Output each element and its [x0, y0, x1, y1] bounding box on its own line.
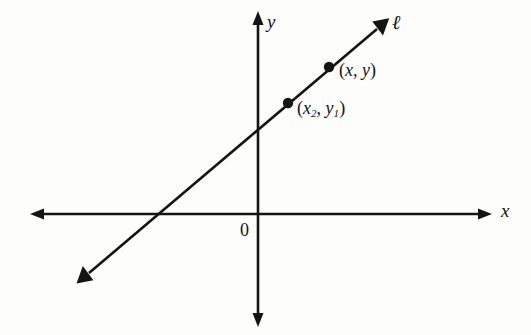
- origin-label: 0: [240, 221, 249, 239]
- point-label-lower-var-y: y: [326, 98, 334, 118]
- coordinate-plane-graphic: [0, 0, 531, 335]
- x-axis: [30, 209, 492, 220]
- point-label-lower-close-paren: ): [339, 98, 345, 118]
- point-label-lower-sub-y: 1: [334, 107, 340, 119]
- point-dot-lower: [283, 98, 293, 108]
- point-label-lower-sub-x: 2: [311, 107, 317, 119]
- figure-canvas: x y 0 ℓ (x, y) (x2, y1): [0, 0, 531, 335]
- point-label-lower-comma: ,: [317, 98, 326, 118]
- x-axis-label: x: [501, 201, 509, 220]
- line-ell: [77, 18, 390, 283]
- x-axis-right-arrowhead: [478, 209, 492, 220]
- point-label-upper-close-paren: ): [370, 60, 376, 80]
- line-ell-lower-arrowhead: [77, 266, 94, 283]
- line-ell-upper-arrowhead: [372, 18, 389, 35]
- y-axis-label: y: [267, 12, 275, 31]
- point-label-upper-var-y: y: [362, 60, 370, 80]
- point-label-lower: (x2, y1): [297, 99, 345, 117]
- line-ell-label: ℓ: [392, 12, 400, 32]
- y-axis-top-arrowhead: [253, 11, 264, 25]
- point-dot-upper: [324, 62, 334, 72]
- y-axis-bottom-arrowhead: [253, 313, 264, 327]
- x-axis-left-arrowhead: [30, 209, 44, 220]
- point-label-upper: (x, y): [339, 61, 376, 79]
- point-label-lower-var-x: x: [303, 98, 311, 118]
- point-label-upper-var-x: x: [345, 60, 353, 80]
- point-label-upper-comma: ,: [353, 60, 362, 80]
- y-axis: [253, 11, 264, 327]
